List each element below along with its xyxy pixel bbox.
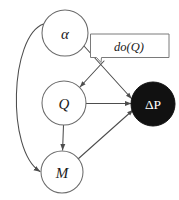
edge-do-intervention-to-Q <box>80 61 104 87</box>
edge-M-to-deltaP <box>78 110 133 159</box>
edge-Q-to-M <box>63 125 64 150</box>
node-M-label: M <box>55 165 70 181</box>
causal-graph-canvas: do(Q) α Q M ΔP <box>0 0 179 200</box>
edge-alpha-to-M <box>16 24 43 172</box>
node-deltaP-label: ΔP <box>145 97 161 112</box>
causal-diagram-figure: do(Q) α Q M ΔP <box>0 0 179 200</box>
node-Q-label: Q <box>59 96 70 112</box>
do-intervention-label: do(Q) <box>114 40 144 54</box>
node-alpha-label: α <box>61 26 70 42</box>
